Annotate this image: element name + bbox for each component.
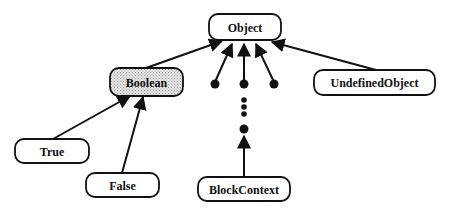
edge-boolean-object [146,41,222,68]
edge-undefinedobject-object [272,42,376,70]
ellipsis-dot-icon [241,104,247,110]
dot-icon [270,80,279,89]
node-label: False [109,179,136,193]
anonymous-subclass-dots [211,80,279,134]
dot-icon [240,80,249,89]
edge-dot1-object [215,44,232,82]
node-label: True [40,145,65,159]
ellipsis-dot-icon [241,97,247,103]
edge-true-boolean [53,96,130,139]
node-label: UndefinedObject [331,76,419,90]
dot-icon [240,125,249,134]
node-boolean: Boolean [110,68,183,96]
node-object: Object [209,14,281,40]
class-hierarchy-diagram: Object Boolean UndefinedObject True Fals… [0,0,449,216]
node-block-context: BlockContext [198,177,290,201]
node-label: Object [228,21,263,35]
node-undefined-object: UndefinedObject [314,70,435,95]
dot-icon [211,80,220,89]
node-false: False [86,173,159,197]
edges [53,41,376,177]
node-label: Boolean [126,76,168,90]
ellipsis-dot-icon [241,111,247,117]
edge-dot3-object [256,44,274,82]
edge-false-boolean [122,97,143,173]
node-true: True [15,139,89,163]
node-label: BlockContext [209,183,279,197]
